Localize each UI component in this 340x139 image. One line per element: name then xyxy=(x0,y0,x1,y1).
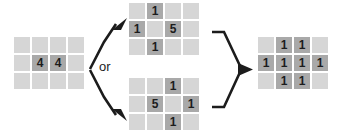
grid-cell: 4 xyxy=(50,55,66,71)
grid-cell-value: 1 xyxy=(281,75,288,87)
grid-cell-value: 1 xyxy=(281,39,288,51)
grid-cell: 1 xyxy=(147,3,163,19)
grid-cell xyxy=(50,37,66,53)
grid-cell: 1 xyxy=(294,37,310,53)
grid-cell xyxy=(129,3,145,19)
grid-cell: 1 xyxy=(276,37,292,53)
grid-cell xyxy=(68,37,84,53)
diagram-canvas: 44 1151 1511 11111111 or xyxy=(0,0,340,139)
grid-cell xyxy=(14,37,30,53)
grid-cell xyxy=(312,73,328,89)
branch-arrowhead-down xyxy=(112,109,127,121)
grid-cell: 1 xyxy=(276,73,292,89)
grid-cell-value: 1 xyxy=(170,116,177,128)
grid-cell xyxy=(68,55,84,71)
grid-cell xyxy=(183,114,199,130)
grid-cell-value: 5 xyxy=(170,23,177,35)
grid-cell xyxy=(147,114,163,130)
grid-cell: 1 xyxy=(258,55,274,71)
grid-cell xyxy=(32,73,48,89)
grid-cell-value: 1 xyxy=(170,80,177,92)
grid-cell xyxy=(165,96,181,112)
grid-cell-value: 1 xyxy=(263,57,270,69)
grid-cell xyxy=(129,39,145,55)
grid-cell xyxy=(129,78,145,94)
grid-cell xyxy=(50,73,66,89)
grid-cell: 1 xyxy=(294,55,310,71)
option-b-grid: 1511 xyxy=(129,78,199,130)
grid-cell-value: 4 xyxy=(55,57,62,69)
grid-cell xyxy=(68,73,84,89)
grid-cell xyxy=(183,78,199,94)
branch-arrowhead-up xyxy=(112,18,127,30)
grid-cell-value: 4 xyxy=(37,57,44,69)
branch-arrow-down-line xyxy=(90,70,116,115)
merge-arrow-down-line xyxy=(212,70,241,107)
grid-cell xyxy=(183,21,199,37)
grid-cell: 1 xyxy=(165,78,181,94)
grid-cell xyxy=(258,73,274,89)
grid-cell-value: 1 xyxy=(299,39,306,51)
merge-arrowhead xyxy=(238,63,253,76)
merge-arrow-up-line xyxy=(212,32,241,68)
grid-cell: 1 xyxy=(312,55,328,71)
grid-cell xyxy=(147,21,163,37)
grid-cell xyxy=(129,114,145,130)
input-grid: 44 xyxy=(14,37,84,89)
grid-cell-value: 1 xyxy=(188,98,195,110)
grid-cell xyxy=(165,3,181,19)
grid-cell: 1 xyxy=(183,96,199,112)
grid-cell-value: 1 xyxy=(152,41,159,53)
grid-cell xyxy=(32,37,48,53)
grid-cell: 1 xyxy=(129,21,145,37)
grid-cell-value: 1 xyxy=(299,75,306,87)
grid-cell-value: 1 xyxy=(134,23,141,35)
grid-cell: 5 xyxy=(147,96,163,112)
or-connector-label: or xyxy=(99,60,111,73)
grid-cell xyxy=(258,37,274,53)
grid-cell xyxy=(165,39,181,55)
grid-cell: 1 xyxy=(276,55,292,71)
grid-cell-value: 1 xyxy=(281,57,288,69)
grid-cell xyxy=(14,55,30,71)
grid-cell xyxy=(147,78,163,94)
grid-cell xyxy=(14,73,30,89)
grid-cell xyxy=(183,39,199,55)
grid-cell xyxy=(183,3,199,19)
grid-cell xyxy=(312,37,328,53)
grid-cell-value: 5 xyxy=(152,98,159,110)
grid-cell: 1 xyxy=(294,73,310,89)
grid-cell-value: 1 xyxy=(299,57,306,69)
output-grid: 11111111 xyxy=(258,37,328,89)
grid-cell: 4 xyxy=(32,55,48,71)
grid-cell: 5 xyxy=(165,21,181,37)
option-a-grid: 1151 xyxy=(129,3,199,55)
grid-cell xyxy=(129,96,145,112)
grid-cell-value: 1 xyxy=(317,57,324,69)
grid-cell: 1 xyxy=(165,114,181,130)
grid-cell-value: 1 xyxy=(152,5,159,17)
grid-cell: 1 xyxy=(147,39,163,55)
